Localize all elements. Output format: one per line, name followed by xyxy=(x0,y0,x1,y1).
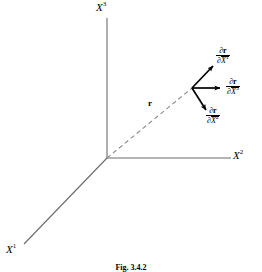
axis-label-x1: X1 xyxy=(6,244,16,255)
tangent-arrow-x1bar xyxy=(192,66,213,88)
position-vector-label: r xyxy=(148,99,152,108)
figure-container: X3 X2 X1 r ∂r ∂X1 ∂r ∂X3 ∂r ∂X2 Fig. 3.4… xyxy=(0,0,262,272)
axis-label-x3: X3 xyxy=(96,2,106,13)
tangent-label-x3bar: ∂r ∂X3 xyxy=(226,78,240,97)
coordinate-axes-diagram xyxy=(0,0,262,272)
tangent-label-x1bar: ∂r ∂X1 xyxy=(216,47,230,66)
axis-line-x1 xyxy=(24,158,107,244)
tangent-label-x2bar: ∂r ∂X2 xyxy=(206,107,220,126)
figure-caption: Fig. 3.4.2 xyxy=(0,263,262,272)
axis-label-x2: X2 xyxy=(233,150,243,161)
tangent-arrow-x2bar xyxy=(192,88,206,110)
